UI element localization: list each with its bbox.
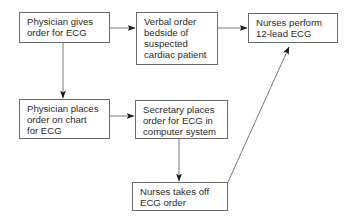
node-verbal-order-bedside: Verbal order bedside of suspected cardia… [136,12,218,65]
node-nurses-takes-off-order: Nurses takes off ECG order [132,182,228,211]
node-nurses-perform-ecg: Nurses perform 12-lead ECG [248,13,338,43]
ecg-order-flowchart: Physician gives order for ECG Verbal ord… [0,0,355,224]
edge-takesoff-to-perform [228,47,289,182]
node-physician-gives-order: Physician gives order for ECG [19,12,110,43]
node-secretary-places-order: Secretary places order for ECG in comput… [135,100,228,139]
node-physician-places-order: Physician places order on chart for ECG [19,99,110,139]
